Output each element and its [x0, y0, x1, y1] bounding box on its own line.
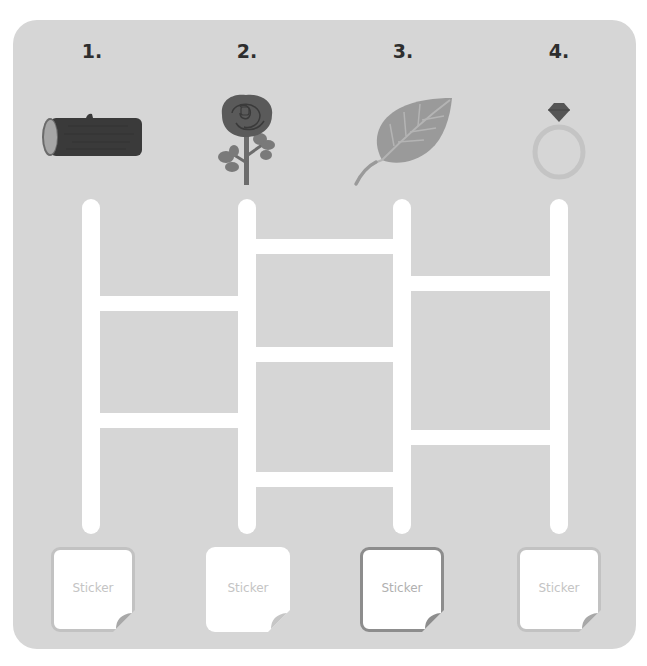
ring-icon [528, 100, 590, 180]
ladder-rung-1-2-b [98, 413, 240, 428]
ladder-rung-2-3-a [254, 239, 395, 254]
log-icon [38, 112, 146, 160]
page-curl-icon [422, 610, 444, 632]
sticker-slot-4[interactable]: Sticker [517, 547, 601, 632]
leaf-icon [350, 98, 458, 188]
column-number-2: 2. [217, 40, 277, 62]
sticker-label: Sticker [381, 581, 422, 595]
ladder-rung-3-4-a [410, 276, 552, 291]
column-number-4: 4. [529, 40, 589, 62]
page-curl-icon [579, 610, 601, 632]
ladder-rung-2-3-c [254, 472, 395, 487]
ladder-rung-3-4-b [410, 430, 552, 445]
column-number-3: 3. [373, 40, 433, 62]
sticker-slot-2[interactable]: Sticker [206, 547, 290, 632]
sticker-label: Sticker [72, 581, 113, 595]
ladder-rail-3 [393, 199, 411, 534]
sticker-label: Sticker [538, 581, 579, 595]
ladder-rail-1 [82, 199, 100, 534]
sticker-slot-3[interactable]: Sticker [360, 547, 444, 632]
page-curl-icon [268, 610, 290, 632]
ladder-rail-4 [550, 199, 568, 534]
ladder-rung-1-2-a [98, 296, 240, 311]
ladder-rung-2-3-b [254, 347, 395, 362]
page-curl-icon [113, 610, 135, 632]
sticker-slot-1[interactable]: Sticker [51, 547, 135, 632]
rose-icon [214, 93, 280, 187]
column-number-1: 1. [62, 40, 122, 62]
sticker-label: Sticker [227, 581, 268, 595]
